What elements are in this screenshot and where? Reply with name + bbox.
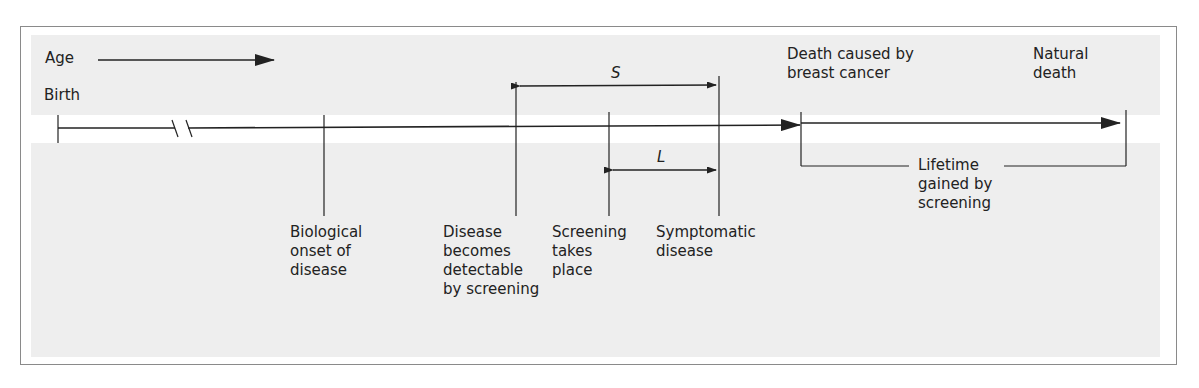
interval-s-arrow (520, 85, 716, 86)
symptomatic-label: Symptomatic disease (656, 223, 756, 261)
death-cancer-label: Death caused by breast cancer (787, 45, 914, 83)
lifetime-gained-label: Lifetime gained by screening (918, 156, 992, 213)
natural-death-label: Natural death (1033, 45, 1088, 83)
detectable-label: Disease becomes detectable by screening (443, 223, 539, 299)
timeline-graphics (0, 0, 1199, 388)
onset-label: Biological onset of disease (290, 223, 362, 280)
interval-l-label: L (657, 148, 665, 167)
interval-s-label: S (611, 64, 621, 83)
screening-label: Screening takes place (552, 223, 627, 280)
age-label: Age (45, 49, 74, 68)
birth-label: Birth (44, 86, 80, 105)
main-axis (188, 125, 800, 128)
